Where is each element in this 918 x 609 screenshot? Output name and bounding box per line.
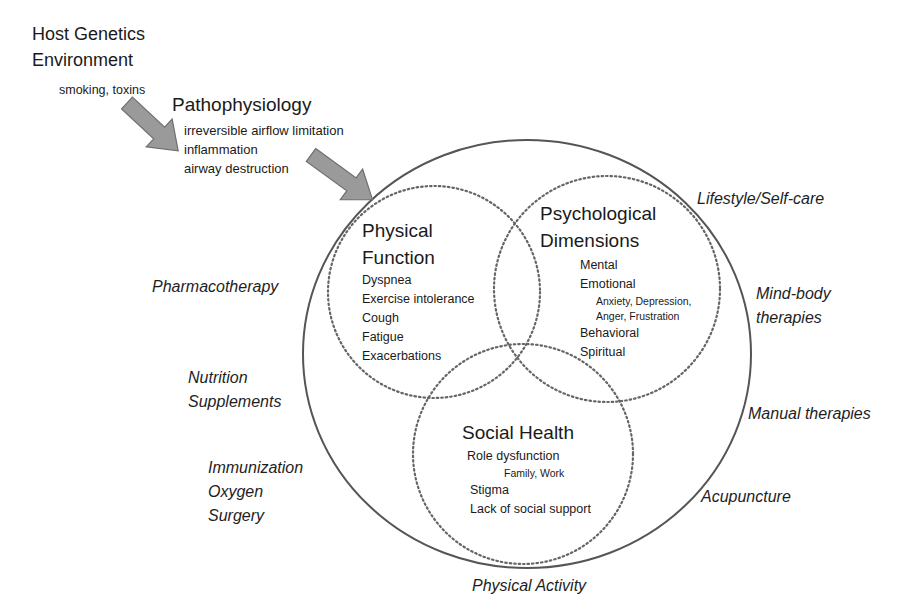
physical-function-item: Dyspnea xyxy=(362,271,475,290)
physical-function-title-line2: Function xyxy=(362,244,475,271)
physical-function-item: Exercise intolerance xyxy=(362,290,475,309)
physical-function-block: Physical Function Dyspnea Exercise intol… xyxy=(362,217,475,366)
social-health-list: Role dysfunction Family, Work Stigma Lac… xyxy=(467,447,591,519)
host-genetics-label: Host Genetics xyxy=(32,24,145,45)
mind-body-label: Mind-body xyxy=(756,282,831,306)
psychological-item: Behavioral xyxy=(580,324,692,343)
oxygen-label: Oxygen xyxy=(208,480,303,504)
social-health-item: Lack of social support xyxy=(467,500,591,519)
psychological-list: Mental Emotional Anxiety, Depression, An… xyxy=(580,256,692,362)
physical-function-item: Cough xyxy=(362,309,475,328)
role-detail: Family, Work xyxy=(467,466,591,481)
pathophysiology-list: irreversible airflow limitation inflamma… xyxy=(184,121,344,178)
physical-function-item: Fatigue xyxy=(362,328,475,347)
surgery-label: Surgery xyxy=(208,504,303,528)
mind-body-block: Mind-body therapies xyxy=(756,282,831,330)
manual-therapies-label: Manual therapies xyxy=(748,402,871,426)
psychological-title-line2: Dimensions xyxy=(540,227,656,254)
psychological-item: Mental xyxy=(580,256,692,275)
nutrition-label: Nutrition xyxy=(188,366,281,390)
pathophysiology-title: Pathophysiology xyxy=(172,94,311,116)
therapies-label: therapies xyxy=(756,306,831,330)
pathophysiology-item: irreversible airflow limitation xyxy=(184,121,344,140)
psychological-item: Emotional xyxy=(580,275,692,294)
psychological-block: Psychological Dimensions xyxy=(540,200,656,254)
emotional-detail: Anger, Frustration xyxy=(580,309,692,324)
pharmacotherapy-label: Pharmacotherapy xyxy=(152,275,278,299)
physical-activity-label: Physical Activity xyxy=(472,574,586,598)
lifestyle-label: Lifestyle/Self-care xyxy=(697,187,824,211)
medical-interventions-block: Immunization Oxygen Surgery xyxy=(208,456,303,528)
emotional-detail: Anxiety, Depression, xyxy=(580,294,692,309)
supplements-label: Supplements xyxy=(188,390,281,414)
psychological-title-line1: Psychological xyxy=(540,200,656,227)
physical-function-title-line1: Physical xyxy=(362,217,475,244)
pathophysiology-item: inflammation xyxy=(184,140,344,159)
acupuncture-label: Acupuncture xyxy=(701,485,791,509)
social-health-title: Social Health xyxy=(462,419,574,446)
social-health-item: Stigma xyxy=(467,481,591,500)
nutrition-block: Nutrition Supplements xyxy=(188,366,281,414)
social-health-item: Role dysfunction xyxy=(467,447,591,466)
physical-function-item: Exacerbations xyxy=(362,347,475,366)
pathophysiology-item: airway destruction xyxy=(184,159,344,178)
environment-label: Environment xyxy=(32,50,133,71)
psychological-item: Spiritual xyxy=(580,343,692,362)
environment-detail: smoking, toxins xyxy=(59,83,145,97)
immunization-label: Immunization xyxy=(208,456,303,480)
